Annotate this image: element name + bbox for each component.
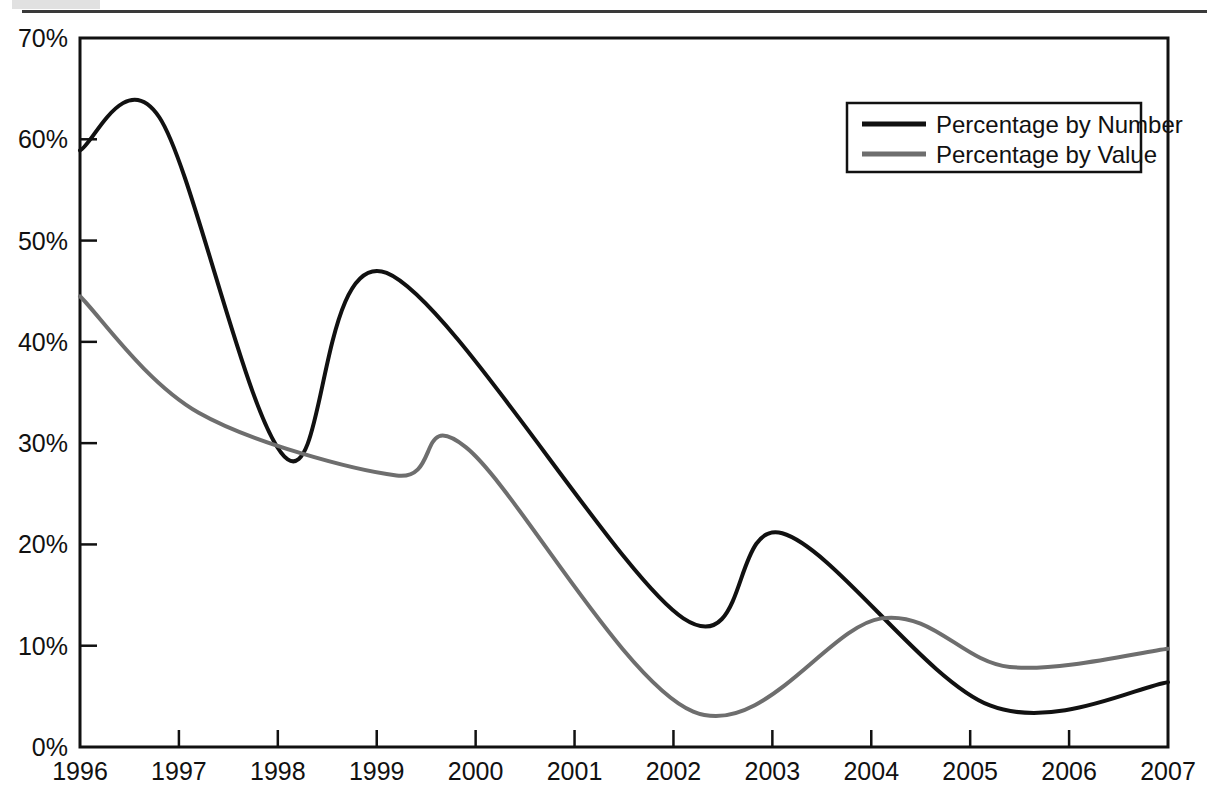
y-tick-label-30%: 30% xyxy=(18,429,68,457)
y-tick-label-40%: 40% xyxy=(18,328,68,356)
y-axis-ticks xyxy=(80,139,97,645)
data-series-layer xyxy=(80,100,1168,716)
x-tick-label-2001: 2001 xyxy=(547,757,603,785)
x-tick-label-2006: 2006 xyxy=(1041,757,1097,785)
chart-legend[interactable]: Percentage by Number Percentage by Value xyxy=(847,103,1183,172)
y-axis-labels: 70%60%50%40%30%20%10%0% xyxy=(18,24,68,761)
x-tick-label-1999: 1999 xyxy=(349,757,405,785)
x-tick-label-2004: 2004 xyxy=(843,757,899,785)
x-tick-label-1997: 1997 xyxy=(151,757,207,785)
line-chart: 70%60%50%40%30%20%10%0% 1996199719981999… xyxy=(0,0,1215,806)
x-tick-label-2005: 2005 xyxy=(942,757,998,785)
series-line-percentage-by-number xyxy=(80,100,1168,713)
x-tick-label-1996: 1996 xyxy=(52,757,108,785)
y-tick-label-50%: 50% xyxy=(18,227,68,255)
x-tick-label-2007: 2007 xyxy=(1140,757,1196,785)
legend-label-percentage-by-value: Percentage by Value xyxy=(936,141,1157,168)
x-tick-label-2003: 2003 xyxy=(745,757,801,785)
legend-label-percentage-by-number: Percentage by Number xyxy=(936,111,1183,138)
y-tick-label-60%: 60% xyxy=(18,125,68,153)
x-tick-label-1998: 1998 xyxy=(250,757,306,785)
figure-container: 70%60%50%40%30%20%10%0% 1996199719981999… xyxy=(0,0,1215,806)
x-tick-label-2002: 2002 xyxy=(646,757,702,785)
y-tick-label-10%: 10% xyxy=(18,632,68,660)
y-tick-label-20%: 20% xyxy=(18,530,68,558)
x-tick-label-2000: 2000 xyxy=(448,757,504,785)
y-tick-label-70%: 70% xyxy=(18,24,68,52)
x-axis-ticks xyxy=(179,730,1069,747)
x-axis-labels: 1996199719981999200020012002200320042005… xyxy=(52,757,1196,785)
